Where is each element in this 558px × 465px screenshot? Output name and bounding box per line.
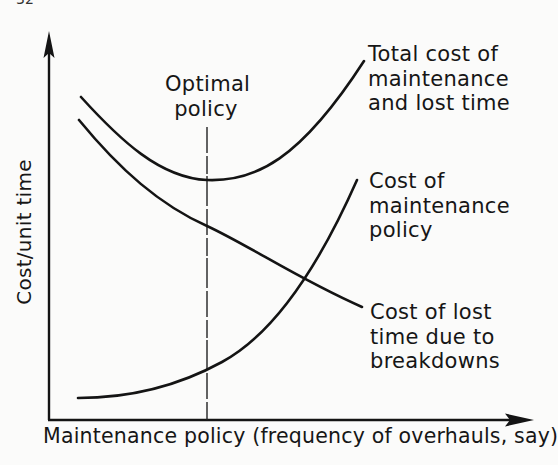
optimal-policy-label-line: Optimal <box>165 72 247 97</box>
optimal-policy-label-line: policy <box>165 97 247 122</box>
total-cost-label-line: maintenance <box>368 67 510 92</box>
y-axis <box>44 31 55 420</box>
maintenance-cost-label: Cost of maintenance policy <box>369 169 510 243</box>
lost-time-cost-label-line: time due to <box>370 325 500 350</box>
total-cost-label-line: Total cost of <box>368 42 510 67</box>
x-axis-label: Maintenance policy (frequency of overhau… <box>43 424 558 448</box>
maintenance-cost-label-line: policy <box>369 218 510 243</box>
maintenance-cost-curve <box>78 180 357 398</box>
total-cost-label: Total cost of maintenance and lost time <box>368 42 510 116</box>
lost-time-cost-label: Cost of lost time due to breakdowns <box>370 300 500 374</box>
lost-time-cost-label-line: Cost of lost <box>370 300 500 325</box>
lost-time-cost-label-line: breakdowns <box>370 349 500 374</box>
maintenance-cost-label-line: Cost of <box>369 169 510 194</box>
optimal-policy-label: Optimal policy <box>165 72 247 121</box>
lost-time-cost-curve <box>79 120 362 307</box>
maintenance-cost-label-line: maintenance <box>369 194 510 219</box>
total-cost-label-line: and lost time <box>368 91 510 116</box>
y-axis-label: Cost/unit time <box>12 159 36 305</box>
